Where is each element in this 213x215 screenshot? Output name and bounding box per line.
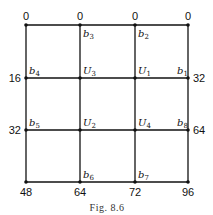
label-b1: b1 xyxy=(177,65,188,78)
label-b2: b2 xyxy=(138,28,149,41)
node xyxy=(24,128,28,132)
label-U1: U1 xyxy=(138,65,151,78)
grid-lines xyxy=(26,25,188,182)
node xyxy=(78,128,82,132)
boundary-value-bottom-4: 96 xyxy=(182,186,194,198)
node xyxy=(78,76,82,80)
label-U3: U3 xyxy=(83,65,96,78)
node xyxy=(186,23,190,27)
label-b3: b3 xyxy=(83,28,94,41)
figure-caption: Fig. 8.6 xyxy=(90,202,125,213)
boundary-value-left-2: 32 xyxy=(9,124,21,136)
node xyxy=(133,128,137,132)
node xyxy=(24,23,28,27)
label-b6: b6 xyxy=(83,169,94,182)
label-b8: b8 xyxy=(177,117,188,130)
node xyxy=(24,180,28,184)
boundary-value-top-2: 0 xyxy=(77,10,83,22)
node xyxy=(186,180,190,184)
boundary-value-right-1: 32 xyxy=(193,72,205,84)
node xyxy=(133,76,137,80)
boundary-value-bottom-2: 64 xyxy=(74,186,86,198)
boundary-value-top-3: 0 xyxy=(132,10,138,22)
boundary-value-right-2: 64 xyxy=(193,124,205,136)
label-U2: U2 xyxy=(83,117,96,130)
grid-nodes xyxy=(24,23,190,184)
boundary-value-left-1: 16 xyxy=(9,72,21,84)
node xyxy=(133,23,137,27)
boundary-value-top-4: 0 xyxy=(185,10,191,22)
boundary-value-top-1: 0 xyxy=(23,10,29,22)
node xyxy=(78,180,82,184)
node xyxy=(133,180,137,184)
label-U4: U4 xyxy=(138,117,151,130)
label-b7: b7 xyxy=(138,169,149,182)
label-b4: b4 xyxy=(29,65,40,78)
grid-diagram: 0 0 0 0 16 32 32 64 48 64 72 96 b3 b2 b4… xyxy=(0,0,213,215)
node xyxy=(78,23,82,27)
boundary-value-bottom-3: 72 xyxy=(129,186,141,198)
node xyxy=(24,76,28,80)
label-b5: b5 xyxy=(29,117,40,130)
boundary-value-bottom-1: 48 xyxy=(20,186,32,198)
